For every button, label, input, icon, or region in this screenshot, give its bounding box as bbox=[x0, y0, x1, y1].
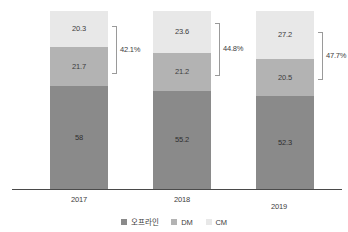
bar-value-offline-2018: 55.2 bbox=[175, 136, 189, 144]
legend-swatch-dm-icon bbox=[171, 219, 177, 225]
bar-value-dm-2017: 21.7 bbox=[72, 63, 86, 71]
bar-value-dm-2019: 20.5 bbox=[278, 74, 292, 82]
x-axis-label-2017: 2017 bbox=[50, 196, 108, 204]
bar-group-2018: 23.6 21.2 55.2 bbox=[153, 11, 211, 189]
bar-value-dm-2018: 21.2 bbox=[175, 68, 189, 76]
legend-label-offline: 오프라인 bbox=[131, 219, 158, 227]
bar-segment-dm-2017[interactable]: 21.7 bbox=[50, 47, 108, 86]
plot-area: 20.3 21.7 58 23.6 21.2 55.2 bbox=[0, 0, 348, 190]
legend-item-dm[interactable]: DM bbox=[171, 219, 192, 227]
bar-segment-offline-2017[interactable]: 58 bbox=[50, 86, 108, 189]
bracket-2018 bbox=[215, 23, 220, 76]
x-axis-label-2018: 2018 bbox=[153, 196, 211, 204]
legend-item-offline[interactable]: 오프라인 bbox=[121, 219, 158, 227]
bar-value-offline-2017: 58 bbox=[75, 134, 83, 142]
legend-swatch-offline-icon bbox=[121, 219, 127, 225]
legend-label-cm: CM bbox=[216, 219, 227, 227]
stacked-bar-2019[interactable]: 27.2 20.5 52.3 bbox=[256, 11, 314, 189]
stacked-bar-chart: 20.3 21.7 58 23.6 21.2 55.2 bbox=[0, 0, 348, 232]
stacked-bar-2017[interactable]: 20.3 21.7 58 bbox=[50, 11, 108, 189]
bar-segment-dm-2019[interactable]: 20.5 bbox=[256, 59, 314, 96]
chart-legend: 오프라인 DM CM bbox=[0, 219, 348, 227]
bar-segment-offline-2018[interactable]: 55.2 bbox=[153, 91, 211, 189]
bracket-label-2017: 42.1% bbox=[120, 46, 140, 54]
legend-item-cm[interactable]: CM bbox=[206, 219, 227, 227]
bar-group-2017: 20.3 21.7 58 bbox=[50, 11, 108, 189]
bar-value-cm-2019: 27.2 bbox=[278, 31, 292, 39]
bar-segment-dm-2018[interactable]: 21.2 bbox=[153, 53, 211, 91]
bar-value-cm-2018: 23.6 bbox=[175, 28, 189, 36]
bracket-label-2018: 44.8% bbox=[223, 45, 243, 53]
bar-segment-cm-2019[interactable]: 27.2 bbox=[256, 11, 314, 59]
bracket-label-2019: 47.7% bbox=[326, 52, 346, 60]
bracket-2017 bbox=[112, 26, 117, 74]
bar-segment-offline-2019[interactable]: 52.3 bbox=[256, 96, 314, 189]
bar-value-offline-2019: 52.3 bbox=[278, 139, 292, 147]
bar-group-2019: 27.2 20.5 52.3 bbox=[256, 11, 314, 189]
stacked-bar-2018[interactable]: 23.6 21.2 55.2 bbox=[153, 11, 211, 189]
x-axis-label-2019: 2019 bbox=[250, 203, 308, 211]
bar-segment-cm-2018[interactable]: 23.6 bbox=[153, 11, 211, 53]
bar-segment-cm-2017[interactable]: 20.3 bbox=[50, 11, 108, 47]
x-axis-line bbox=[12, 189, 342, 190]
bar-value-cm-2017: 20.3 bbox=[72, 25, 86, 33]
legend-swatch-cm-icon bbox=[206, 219, 212, 225]
legend-label-dm: DM bbox=[181, 219, 192, 227]
bracket-2019 bbox=[318, 32, 323, 80]
